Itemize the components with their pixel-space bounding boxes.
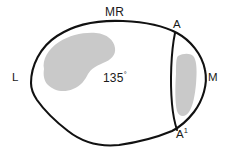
figure-root: MR A M L A1 135° xyxy=(0,0,234,159)
label-point-a: A xyxy=(173,19,181,31)
label-point-a-prime: A1 xyxy=(176,129,188,141)
label-point-a-prime-superscript: 1 xyxy=(184,126,188,135)
label-point-a-prime-base: A xyxy=(176,128,184,140)
label-medial-m: M xyxy=(208,72,218,84)
angle-value: 135 xyxy=(103,71,124,85)
label-mr: MR xyxy=(105,6,124,18)
label-lateral-l: L xyxy=(12,72,18,84)
degree-icon: ° xyxy=(124,70,127,79)
label-angle-measure: 135° xyxy=(103,72,127,84)
